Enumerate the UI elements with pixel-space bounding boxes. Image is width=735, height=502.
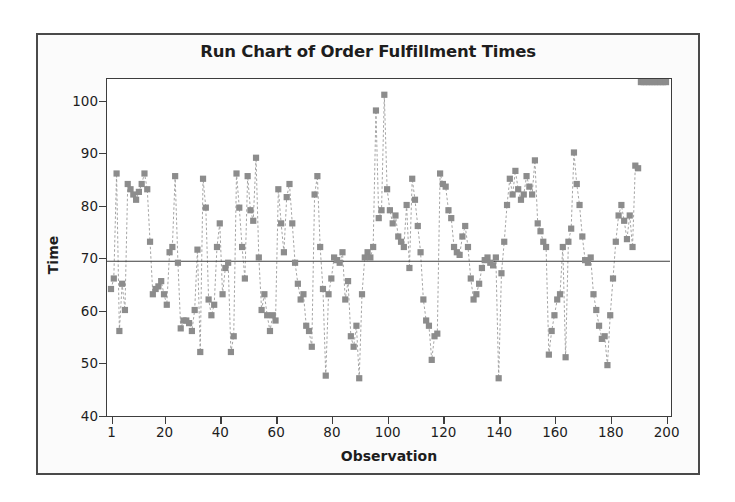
- data-point-marker: [498, 270, 504, 276]
- data-point-marker: [510, 191, 516, 197]
- y-tick-mark: [99, 101, 106, 102]
- data-point-marker: [337, 260, 343, 266]
- data-point-marker: [465, 244, 471, 250]
- y-tick-label: 70: [81, 250, 98, 266]
- data-point-marker: [245, 173, 251, 179]
- data-point-marker: [272, 317, 278, 323]
- data-point-marker: [535, 220, 541, 226]
- data-point-marker: [590, 291, 596, 297]
- data-point-marker: [434, 331, 440, 337]
- y-tick-mark: [99, 206, 106, 207]
- data-point-marker: [593, 307, 599, 313]
- data-point-marker: [261, 291, 267, 297]
- data-point-marker: [278, 220, 284, 226]
- data-point-marker: [133, 197, 139, 203]
- data-point-marker: [242, 275, 248, 281]
- x-tick-label: 60: [268, 424, 285, 440]
- data-point-marker: [588, 254, 594, 260]
- data-point-marker: [602, 333, 608, 339]
- x-tick-mark: [499, 417, 500, 424]
- data-point-marker: [618, 202, 624, 208]
- data-point-marker: [309, 344, 315, 350]
- data-point-marker: [328, 275, 334, 281]
- data-point-marker: [381, 92, 387, 98]
- data-point-marker: [186, 320, 192, 326]
- data-point-marker: [596, 323, 602, 329]
- data-point-marker: [613, 239, 619, 245]
- data-point-marker: [390, 220, 396, 226]
- data-point-marker: [203, 205, 209, 211]
- x-tick-mark: [611, 417, 612, 424]
- x-tick-label: 40: [212, 424, 229, 440]
- series-plot: [107, 79, 670, 415]
- data-point-marker: [300, 291, 306, 297]
- x-tick-mark: [220, 417, 221, 424]
- y-tick-mark: [99, 153, 106, 154]
- data-point-marker: [147, 239, 153, 245]
- y-tick-label: 90: [81, 145, 98, 161]
- data-point-marker: [367, 254, 373, 260]
- data-point-marker: [420, 296, 426, 302]
- data-point-marker: [457, 252, 463, 258]
- data-point-marker: [119, 281, 125, 287]
- data-point-marker: [621, 218, 627, 224]
- data-point-marker: [448, 215, 454, 221]
- y-tick-mark: [99, 311, 106, 312]
- data-point-marker: [515, 186, 521, 192]
- data-point-marker: [392, 212, 398, 218]
- x-tick-label: 140: [486, 424, 512, 440]
- data-point-marker: [295, 281, 301, 287]
- y-tick-mark: [99, 258, 106, 259]
- data-point-marker: [529, 191, 535, 197]
- x-axis-label: Observation: [106, 448, 672, 464]
- data-point-marker: [537, 228, 543, 234]
- data-point-marker: [197, 349, 203, 355]
- data-point-marker: [629, 244, 635, 250]
- y-tick-mark: [99, 363, 106, 364]
- data-point-marker: [459, 233, 465, 239]
- data-point-marker: [306, 328, 312, 334]
- data-point-marker: [323, 373, 329, 379]
- x-tick-label: 120: [431, 424, 457, 440]
- data-point-marker: [387, 207, 393, 213]
- data-point-marker: [111, 275, 117, 281]
- data-point-marker: [615, 212, 621, 218]
- data-point-marker: [493, 254, 499, 260]
- data-point-marker: [496, 375, 502, 381]
- data-point-marker: [415, 223, 421, 229]
- y-tick-label: 100: [72, 93, 98, 109]
- data-point-marker: [373, 107, 379, 113]
- data-point-marker: [194, 247, 200, 253]
- x-tick-label: 80: [323, 424, 340, 440]
- data-point-marker: [443, 184, 449, 190]
- data-point-marker: [557, 291, 563, 297]
- data-point-marker: [139, 181, 145, 187]
- data-point-marker: [543, 244, 549, 250]
- data-point-marker: [289, 220, 295, 226]
- data-point-marker: [108, 286, 114, 292]
- y-axis-tick-labels: 405060708090100: [58, 78, 98, 417]
- series-line-path: [111, 95, 638, 379]
- data-point-marker: [549, 328, 555, 334]
- data-point-marker: [231, 333, 237, 339]
- data-point-marker: [286, 181, 292, 187]
- data-point-marker: [473, 291, 479, 297]
- x-tick-mark: [443, 417, 444, 424]
- data-point-marker: [113, 170, 119, 176]
- data-point-marker: [200, 176, 206, 182]
- data-point-marker: [225, 260, 231, 266]
- data-point-marker: [417, 249, 423, 255]
- x-tick-label: 160: [542, 424, 568, 440]
- data-point-marker: [571, 149, 577, 155]
- data-point-marker: [211, 302, 217, 308]
- x-tick-label: 20: [156, 424, 173, 440]
- x-tick-label: 180: [598, 424, 624, 440]
- data-point-marker: [236, 205, 242, 211]
- data-point-marker: [412, 197, 418, 203]
- x-tick-mark: [332, 417, 333, 424]
- x-axis-tick-labels: 120406080100120140160180200: [0, 424, 735, 444]
- data-point-marker: [401, 244, 407, 250]
- data-point-marker: [325, 291, 331, 297]
- data-point-marker: [565, 239, 571, 245]
- data-point-marker: [546, 352, 552, 358]
